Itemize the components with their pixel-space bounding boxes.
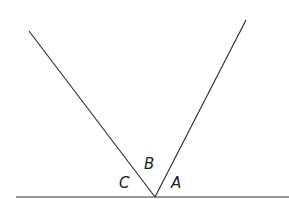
angle-diagram: B C A [0,0,289,199]
label-c: C [119,174,130,192]
diagram-svg: B C A [0,0,289,199]
label-b: B [144,155,154,173]
label-a: A [170,174,181,192]
right-ray [155,20,246,197]
left-ray [29,31,155,197]
